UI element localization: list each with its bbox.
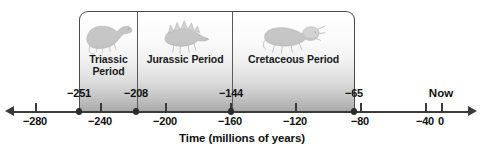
- axis-tick-label: −240: [88, 115, 112, 127]
- axis-tick-label-zero: 0: [438, 115, 444, 127]
- period-boundary-label: −251: [67, 87, 91, 99]
- period-label-triassic-line1: Triassic: [89, 53, 127, 65]
- sauropod-icon: [82, 14, 135, 58]
- period-boundary-marker: [133, 108, 140, 115]
- period-boundary-label: −208: [124, 87, 148, 99]
- axis-tick: [425, 103, 427, 112]
- axis-tick: [165, 103, 167, 112]
- axis-tick-label: −80: [351, 115, 369, 127]
- period-label-cretaceous-line1: Cretaceous Period: [248, 53, 339, 65]
- period-boundary-marker: [76, 108, 83, 115]
- period-boundary-label: −144: [219, 87, 243, 99]
- period-label-triassic-line2: Period: [92, 65, 124, 77]
- axis-arrow-right-icon: [468, 106, 477, 116]
- period-label-jurassic: Jurassic Period: [138, 54, 232, 66]
- period-boundary-label: −65: [345, 87, 363, 99]
- axis-tick-label: −40: [416, 115, 434, 127]
- stegosaurus-icon: [140, 14, 230, 58]
- axis-tick-label: −160: [218, 115, 242, 127]
- axis-tick: [35, 103, 37, 112]
- axis-tick-label: −120: [283, 115, 307, 127]
- axis-tick: [295, 103, 297, 112]
- period-boundary-marker: [351, 108, 358, 115]
- triceratops-icon: [235, 14, 352, 58]
- axis-tick-zero: [441, 103, 443, 112]
- axis-tick: [360, 103, 362, 112]
- now-label: Now: [429, 87, 453, 99]
- period-label-triassic: Triassic Period: [80, 54, 137, 77]
- axis-tick-label: −200: [153, 115, 177, 127]
- period-cell-cretaceous: Cretaceous Period: [233, 12, 354, 112]
- time-axis-line: [14, 111, 470, 113]
- period-label-jurassic-line1: Jurassic Period: [147, 53, 224, 65]
- mesozoic-era-box: Triassic Period: [79, 11, 355, 112]
- period-label-cretaceous: Cretaceous Period: [233, 54, 354, 66]
- axis-tick: [100, 103, 102, 112]
- axis-arrow-left-icon: [5, 106, 14, 116]
- axis-caption: Time (millions of years): [0, 132, 484, 144]
- geologic-timeline-figure: Triassic Period: [0, 0, 484, 152]
- axis-tick-label: −280: [23, 115, 47, 127]
- period-cell-jurassic: Jurassic Period: [138, 12, 232, 112]
- period-boundary-marker: [228, 108, 235, 115]
